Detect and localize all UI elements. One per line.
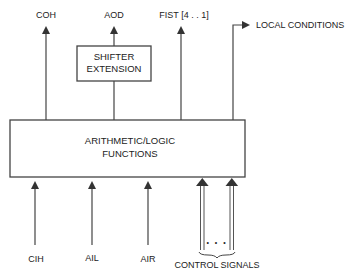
alu-label-line2: FUNCTIONS <box>102 148 157 159</box>
control-signals-ellipsis: • • • <box>206 239 227 246</box>
cih-label: CIH <box>28 254 44 264</box>
ail-label: AIL <box>85 253 99 263</box>
aod-label: AOD <box>104 10 124 20</box>
local-conditions-label: LOCAL CONDITIONS <box>256 20 344 30</box>
local-conditions-output-arrow <box>233 25 246 120</box>
control-signals-label: CONTROL SIGNALS <box>174 260 259 270</box>
coh-label: COH <box>36 10 56 20</box>
control-signals-brace <box>199 252 235 258</box>
alu-block: ARITHMETIC/LOGIC FUNCTIONS <box>10 120 245 177</box>
fist-label: FIST [4 . . 1] <box>159 10 208 20</box>
alu-label-line1: ARITHMETIC/LOGIC <box>85 135 175 146</box>
alu-block-diagram: ARITHMETIC/LOGIC FUNCTIONS SHIFTER EXTEN… <box>0 0 362 275</box>
shifter-extension-block: SHIFTER EXTENSION <box>77 46 151 81</box>
air-label: AIR <box>140 254 156 264</box>
shifter-label-line1: SHIFTER <box>94 51 135 62</box>
shifter-label-line2: EXTENSION <box>87 63 142 74</box>
